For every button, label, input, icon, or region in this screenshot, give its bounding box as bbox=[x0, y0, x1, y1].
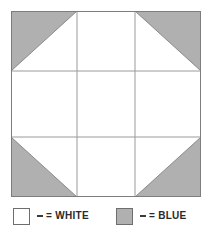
legend-entry-blue: = BLUE bbox=[116, 206, 187, 226]
legend-dash-icon bbox=[140, 215, 146, 217]
legend-entry-white: = WHITE bbox=[13, 206, 89, 226]
quilt-figure: = WHITE = BLUE bbox=[0, 0, 212, 236]
quilt-block-diagram bbox=[11, 11, 201, 197]
legend-dash-icon bbox=[37, 215, 43, 217]
legend: = WHITE = BLUE bbox=[13, 206, 187, 226]
quilt-grid-svg bbox=[11, 11, 201, 197]
legend-label-white: = WHITE bbox=[46, 211, 89, 221]
white-swatch-icon bbox=[13, 208, 30, 225]
legend-label-blue: = BLUE bbox=[149, 211, 187, 221]
blue-swatch-icon bbox=[116, 208, 133, 225]
